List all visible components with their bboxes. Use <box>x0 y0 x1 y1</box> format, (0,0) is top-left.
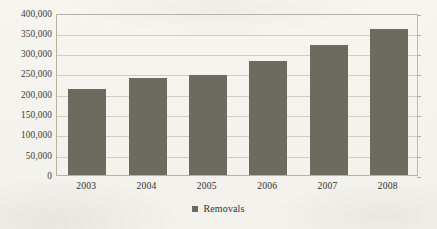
x-axis-tick-label: 2004 <box>117 180 177 191</box>
x-axis-tick-label: 2008 <box>358 180 418 191</box>
y-axis-tick-mark <box>417 136 421 137</box>
x-axis-tick-label: 2006 <box>237 180 297 191</box>
y-axis-tick-label: 100,000 <box>0 130 52 140</box>
gridline <box>57 55 417 56</box>
gridline <box>57 35 417 36</box>
chart-figure: 050,000100,000150,000200,000250,000300,0… <box>0 0 437 229</box>
y-axis-tick-label: 50,000 <box>0 151 52 161</box>
gridline <box>57 157 417 158</box>
gridline <box>57 75 417 76</box>
bar <box>189 75 227 175</box>
y-axis-tick-label: 350,000 <box>0 29 52 39</box>
x-axis-tick-label: 2005 <box>177 180 237 191</box>
x-axis-tick-label: 2003 <box>56 180 116 191</box>
y-axis-tick-mark <box>417 177 421 178</box>
y-axis-tick-label: 0 <box>0 171 52 181</box>
bar <box>249 61 287 175</box>
bar <box>310 45 348 175</box>
y-axis-tick-label: 400,000 <box>0 9 52 19</box>
y-axis-tick-label: 200,000 <box>0 90 52 100</box>
y-axis-tick-mark <box>417 35 421 36</box>
y-axis-tick-mark <box>417 116 421 117</box>
y-axis-tick-label: 250,000 <box>0 69 52 79</box>
bar <box>370 29 408 175</box>
y-axis-tick-label: 150,000 <box>0 110 52 120</box>
chart-legend: Removals <box>0 203 437 214</box>
bar <box>68 89 106 175</box>
y-axis-tick-label: 300,000 <box>0 49 52 59</box>
y-axis-tick-mark <box>417 157 421 158</box>
legend-color-swatch <box>192 206 198 212</box>
y-axis-tick-mark <box>417 96 421 97</box>
gridline <box>57 136 417 137</box>
y-axis-tick-mark <box>417 15 421 16</box>
plot-area <box>56 14 418 177</box>
gridline <box>57 116 417 117</box>
gridline <box>57 96 417 97</box>
legend-item-label: Removals <box>203 203 244 214</box>
x-axis-tick-label: 2007 <box>298 180 358 191</box>
y-axis-tick-mark <box>417 55 421 56</box>
bar <box>129 78 167 176</box>
y-axis-tick-mark <box>417 75 421 76</box>
